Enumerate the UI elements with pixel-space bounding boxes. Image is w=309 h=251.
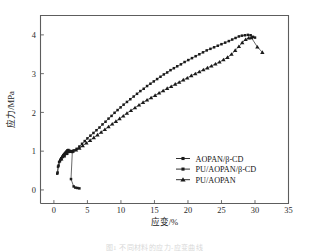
legend-marker-square: [181, 168, 184, 171]
data-point-triangle: [165, 86, 169, 90]
data-point-square: [228, 40, 231, 43]
figure-caption: 图1 不同材料的应力-应变曲线: [0, 242, 309, 251]
data-point-triangle: [133, 106, 137, 110]
data-point-square: [202, 51, 205, 54]
y-tick-label: 1: [32, 147, 36, 156]
legend-item-1[interactable]: AOPAN/β-CD: [176, 155, 244, 164]
data-point-triangle: [189, 74, 193, 78]
stress-strain-chart: 05101520253035 01234 AOPAN/β-CDPU/AOPAN/…: [0, 0, 309, 251]
data-point-square: [116, 109, 119, 112]
data-point-square: [169, 69, 172, 72]
y-axis-title: 应力/MPa: [5, 91, 16, 128]
data-point-square: [194, 55, 197, 58]
plot-frame: [41, 16, 289, 204]
chart-legend: AOPAN/β-CDPU/AOPAN/β-CDPU/AOPAN: [176, 155, 256, 185]
data-point-square: [95, 129, 98, 132]
data-point-square: [113, 112, 116, 115]
data-point-square: [166, 71, 169, 74]
data-point-square: [149, 82, 152, 85]
data-point-square: [220, 43, 223, 46]
data-point-triangle: [129, 108, 133, 112]
data-point-triangle: [193, 72, 197, 76]
data-point-triangle: [185, 76, 189, 80]
data-point-square: [129, 98, 132, 101]
data-point-square: [104, 120, 107, 123]
data-point-triangle: [161, 89, 165, 93]
data-point-square: [183, 61, 186, 64]
data-point-triangle: [209, 64, 213, 68]
data-point-square: [83, 140, 86, 143]
data-point-square: [78, 187, 81, 190]
data-point-square: [92, 132, 95, 135]
data-point-square: [107, 117, 110, 120]
data-point-square: [156, 78, 159, 81]
legend-label: AOPAN/β-CD: [196, 155, 244, 164]
data-point-square: [173, 67, 176, 70]
data-point-square: [101, 123, 104, 126]
data-point-square: [136, 93, 139, 96]
data-point-square: [205, 49, 208, 52]
data-point-square: [224, 41, 227, 44]
y-tick-label: 3: [32, 70, 36, 79]
data-point-triangle: [201, 68, 205, 72]
y-tick-label: 4: [32, 31, 37, 40]
data-point-square: [89, 134, 92, 137]
x-axis-title: 应变/%: [151, 216, 179, 227]
data-point-triangle: [141, 100, 145, 104]
data-point-square: [159, 75, 162, 78]
data-point-square: [181, 157, 184, 160]
data-point-square: [247, 34, 250, 37]
data-point-square: [231, 38, 234, 41]
data-point-square: [187, 59, 190, 62]
data-point-triangle: [181, 78, 185, 82]
data-point-triangle: [125, 111, 129, 115]
data-point-triangle: [197, 70, 201, 74]
y-tick-label: 0: [32, 186, 36, 195]
legend-label: PU/AOPAN/β-CD: [196, 165, 257, 174]
data-point-square: [163, 73, 166, 76]
y-axis-tick-labels: 01234: [32, 31, 37, 195]
x-tick-label: 5: [85, 206, 89, 215]
legend-item-2[interactable]: PU/AOPAN/β-CD: [176, 165, 256, 174]
data-point-square: [56, 172, 59, 175]
data-point-square: [209, 48, 212, 51]
data-point-square: [98, 126, 101, 129]
x-axis-tick-labels: 05101520253035: [52, 206, 293, 215]
data-point-square: [139, 90, 142, 93]
y-tick-label: 2: [32, 109, 36, 118]
legend-label: PU/AOPAN: [196, 176, 236, 185]
data-point-square: [254, 36, 257, 39]
x-tick-label: 10: [117, 206, 125, 215]
data-point-triangle: [213, 62, 217, 66]
legend-item-3[interactable]: PU/AOPAN: [176, 176, 236, 185]
series-line: [58, 150, 80, 188]
x-tick-label: 35: [284, 206, 292, 215]
data-point-square: [191, 57, 194, 60]
data-point-triangle: [255, 45, 259, 49]
data-point-square: [110, 115, 113, 118]
data-point-square: [234, 37, 237, 40]
data-point-square: [122, 103, 125, 106]
data-point-square: [132, 95, 135, 98]
data-point-triangle: [137, 103, 141, 107]
data-point-square: [213, 46, 216, 49]
x-tick-label: 15: [150, 206, 158, 215]
figure-container: 05101520253035 01234 AOPAN/β-CDPU/AOPAN/…: [0, 0, 309, 251]
data-point-square: [57, 164, 60, 167]
data-point-square: [70, 178, 73, 181]
data-point-triangle: [157, 91, 161, 95]
legend-marker-square: [181, 157, 184, 160]
data-point-square: [198, 53, 201, 56]
data-point-square: [146, 85, 149, 88]
data-point-square: [153, 80, 156, 83]
x-tick-label: 20: [184, 206, 192, 215]
data-point-triangle: [221, 58, 225, 62]
x-tick-label: 30: [251, 206, 259, 215]
data-point-square: [180, 63, 183, 65]
series-line: [57, 35, 255, 174]
data-point-triangle: [205, 66, 209, 70]
x-tick-label: 25: [217, 206, 225, 215]
series-3: [59, 36, 264, 161]
data-point-square: [86, 137, 89, 140]
data-point-triangle: [169, 84, 173, 88]
